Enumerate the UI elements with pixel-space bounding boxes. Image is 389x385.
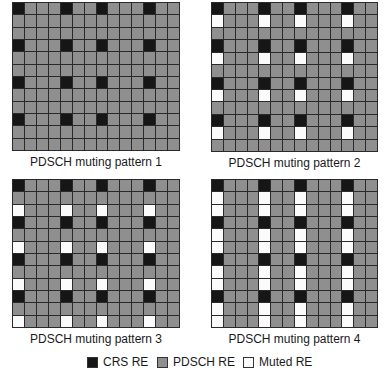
pdsch-re-cell: [73, 65, 84, 76]
pdsch-re-cell: [37, 77, 48, 88]
crs-re-cell: [295, 115, 306, 126]
muted-re-cell: [212, 127, 223, 138]
pdsch-re-cell: [132, 291, 143, 302]
crs-re-cell: [61, 217, 72, 228]
pdsch-re-cell: [271, 217, 282, 228]
crs-re-cell: [212, 78, 223, 89]
pdsch-re-cell: [354, 15, 365, 26]
muted-re-cell: [212, 192, 223, 203]
pdsch-re-cell: [37, 102, 48, 113]
pdsch-re-cell: [73, 3, 84, 14]
pdsch-re-cell: [354, 205, 365, 216]
pdsch-re-cell: [73, 40, 84, 51]
pdsch-re-cell: [319, 65, 330, 76]
pdsch-re-cell: [331, 40, 342, 51]
pdsch-re-cell: [168, 139, 179, 150]
legend-label-muted: Muted RE: [259, 355, 312, 369]
pdsch-re-cell: [49, 15, 60, 26]
muted-re-cell: [259, 279, 270, 290]
pdsch-re-cell: [366, 254, 377, 265]
pdsch-re-cell: [366, 115, 377, 126]
pdsch-re-cell: [37, 316, 48, 327]
pdsch-re-cell: [97, 192, 108, 203]
pdsch-re-cell: [307, 229, 318, 240]
pdsch-re-cell: [224, 53, 235, 64]
pdsch-re-cell: [25, 89, 36, 100]
pdsch-re-cell: [366, 40, 377, 51]
pdsch-re-cell: [354, 127, 365, 138]
pdsch-re-cell: [73, 254, 84, 265]
crs-re-cell: [259, 291, 270, 302]
pdsch-re-cell: [37, 65, 48, 76]
pdsch-re-cell: [307, 53, 318, 64]
crs-re-cell: [61, 77, 72, 88]
pattern-caption: PDSCH muting pattern 4: [211, 332, 378, 346]
pdsch-re-cell: [132, 3, 143, 14]
pdsch-re-cell: [132, 254, 143, 265]
pdsch-re-cell: [132, 89, 143, 100]
pdsch-re-cell: [73, 205, 84, 216]
pdsch-re-cell: [108, 139, 119, 150]
crs-re-cell: [144, 254, 155, 265]
pdsch-re-cell: [168, 180, 179, 191]
pdsch-re-cell: [283, 192, 294, 203]
pdsch-re-cell: [248, 180, 259, 191]
pdsch-re-cell: [132, 217, 143, 228]
pdsch-re-cell: [224, 180, 235, 191]
pdsch-re-cell: [120, 205, 131, 216]
muted-re-cell: [144, 316, 155, 327]
pdsch-re-cell: [212, 140, 223, 151]
pdsch-re-cell: [156, 77, 167, 88]
pdsch-re-cell: [354, 242, 365, 253]
muted-re-cell: [144, 242, 155, 253]
pdsch-re-cell: [49, 242, 60, 253]
muted-re-cell: [212, 266, 223, 277]
pdsch-re-cell: [331, 303, 342, 314]
pdsch-re-cell: [25, 77, 36, 88]
pdsch-re-cell: [168, 303, 179, 314]
muted-re-cell: [13, 279, 24, 290]
pdsch-re-cell: [49, 205, 60, 216]
pdsch-re-cell: [283, 180, 294, 191]
pdsch-re-cell: [307, 115, 318, 126]
crs-re-cell: [13, 40, 24, 51]
crs-re-cell: [295, 217, 306, 228]
pdsch-re-cell: [120, 180, 131, 191]
pdsch-re-cell: [307, 140, 318, 151]
pdsch-re-cell: [236, 65, 247, 76]
pdsch-re-cell: [61, 266, 72, 277]
pdsch-re-cell: [25, 303, 36, 314]
pdsch-re-cell: [120, 65, 131, 76]
pdsch-re-cell: [85, 279, 96, 290]
pdsch-re-cell: [354, 90, 365, 101]
pdsch-re-cell: [224, 78, 235, 89]
pdsch-re-cell: [73, 242, 84, 253]
muted-re-cell: [342, 303, 353, 314]
pdsch-re-cell: [25, 28, 36, 39]
pdsch-re-cell: [248, 291, 259, 302]
pdsch-re-cell: [13, 139, 24, 150]
pdsch-re-cell: [85, 114, 96, 125]
pdsch-re-cell: [354, 53, 365, 64]
pdsch-re-cell: [248, 15, 259, 26]
muted-re-cell: [295, 53, 306, 64]
pdsch-re-cell: [366, 53, 377, 64]
crs-re-cell: [259, 78, 270, 89]
crs-re-cell: [97, 3, 108, 14]
pdsch-re-cell: [25, 3, 36, 14]
crs-re-cell: [295, 180, 306, 191]
pdsch-re-cell: [259, 28, 270, 39]
pdsch-re-cell: [25, 139, 36, 150]
pdsch-re-cell: [319, 242, 330, 253]
resource-grid: [12, 2, 180, 151]
pdsch-re-cell: [85, 139, 96, 150]
pdsch-re-cell: [13, 192, 24, 203]
pdsch-re-cell: [236, 78, 247, 89]
pdsch-re-cell: [120, 77, 131, 88]
pdsch-re-cell: [49, 279, 60, 290]
pdsch-re-cell: [37, 279, 48, 290]
pdsch-re-cell: [85, 303, 96, 314]
muted-re-cell: [295, 229, 306, 240]
pdsch-re-cell: [132, 114, 143, 125]
pdsch-re-cell: [224, 316, 235, 327]
